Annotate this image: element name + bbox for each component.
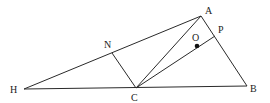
label-P: P [218, 24, 224, 35]
geometry-diagram: A B C H N P O [0, 0, 270, 103]
segment-HA [24, 16, 201, 89]
segment-NC [112, 53, 136, 88]
label-B: B [250, 83, 257, 94]
label-O: O [192, 32, 199, 43]
point-O-marker [195, 44, 200, 49]
label-A: A [205, 5, 213, 16]
label-H: H [10, 84, 17, 95]
label-C: C [131, 92, 138, 103]
segment-AB [201, 16, 247, 86]
label-N: N [104, 39, 111, 50]
